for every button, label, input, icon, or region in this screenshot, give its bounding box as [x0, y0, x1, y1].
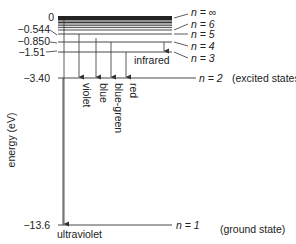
leader-e6 [50, 30, 57, 35]
level-label-n1: n = 1 [176, 219, 200, 231]
blue-green-label: blue-green [113, 83, 125, 133]
leader-ninf [174, 14, 188, 18]
energy-label-136: −13.6 [23, 219, 50, 231]
blue-label: blue [98, 83, 110, 103]
leader-e4 [46, 51, 57, 52]
level-label-n4: n = 4 [191, 40, 215, 52]
leader-n6 [174, 24, 188, 30]
ultraviolet-label: ultraviolet [57, 228, 102, 240]
energy-label-151: −1.51 [18, 46, 45, 58]
excited-states-label: (excited states) [232, 72, 296, 84]
energy-label-0544: −0.544 [18, 23, 51, 35]
leader-n3 [174, 52, 188, 58]
level-label-ninf: n = ∞ [191, 6, 216, 18]
level-label-n2: n = 2 [199, 72, 223, 84]
energy-label-0: 0 [48, 11, 54, 23]
energy-label-340: −3.40 [23, 72, 50, 84]
infrared-label: infrared [134, 54, 170, 66]
level-label-n3: n = 3 [191, 52, 215, 64]
level-label-n5: n = 5 [191, 28, 215, 40]
ground-state-label: (ground state) [220, 223, 285, 235]
leader-n4 [174, 42, 188, 46]
axis-label-energy: energy (eV) [5, 113, 17, 168]
violet-label: violet [81, 83, 93, 108]
red-label: red [128, 83, 140, 98]
energy-level-diagram: 0 −0.544 −0.850 −1.51 −3.40 −13.6 energy… [0, 0, 296, 244]
continuum-band [58, 16, 172, 28]
leader-e5 [50, 42, 57, 43]
